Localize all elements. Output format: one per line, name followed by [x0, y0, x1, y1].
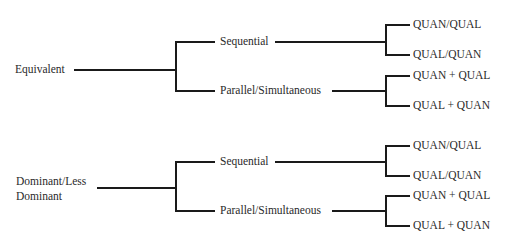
root-node-dominant-line1: Dominant/Less — [16, 175, 86, 188]
root-node-equivalent: Equivalent — [15, 63, 65, 76]
leaf-node: QUAN/QUAL — [413, 139, 481, 152]
branch-node-parallel: Parallel/Simultaneous — [220, 84, 321, 97]
leaf-node: QUAN + QUAL — [413, 69, 490, 82]
leaf-node: QUAL + QUAN — [413, 99, 490, 112]
branch-node-parallel: Parallel/Simultaneous — [220, 204, 321, 217]
leaf-node: QUAL/QUAN — [413, 169, 481, 182]
branch-node-sequential: Sequential — [220, 155, 269, 168]
leaf-node: QUAN + QUAL — [413, 189, 490, 202]
root-node-dominant-line2: Dominant — [16, 190, 62, 203]
branch-node-sequential: Sequential — [220, 35, 269, 48]
leaf-node: QUAL + QUAN — [413, 219, 490, 232]
leaf-node: QUAL/QUAN — [413, 48, 481, 61]
leaf-node: QUAN/QUAL — [413, 18, 481, 31]
